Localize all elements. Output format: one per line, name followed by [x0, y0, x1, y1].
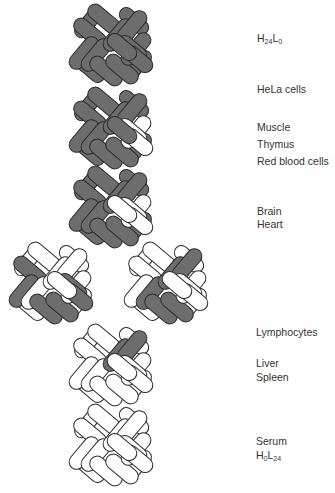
label-brain: Brain: [257, 204, 282, 218]
ferritin-shell-s1: [66, 1, 156, 89]
ferritin-shell-s4a: [6, 239, 96, 327]
label-liver: Liver: [256, 356, 279, 370]
ferritin-shell-s6: [66, 401, 156, 489]
label-thymus: Thymus: [257, 137, 294, 151]
label-hela-cells: HeLa cells: [257, 82, 306, 96]
ferritin-shell-s2: [66, 84, 156, 172]
label-h24l0: H24L0: [257, 31, 282, 45]
isoferritin-shells-diagram: [0, 0, 335, 493]
label-spleen: Spleen: [256, 370, 289, 384]
label-muscle: Muscle: [257, 120, 290, 134]
label-heart: Heart: [257, 217, 283, 231]
label-h0l24: H0L24: [256, 448, 281, 462]
ferritin-shell-s3: [66, 163, 156, 251]
ferritin-shell-s5: [66, 321, 156, 409]
label-lymphocytes: Lymphocytes: [256, 325, 317, 339]
label-serum: Serum: [256, 434, 287, 448]
label-red-blood-cells: Red blood cells: [257, 154, 329, 168]
ferritin-shell-s4b: [121, 239, 211, 327]
